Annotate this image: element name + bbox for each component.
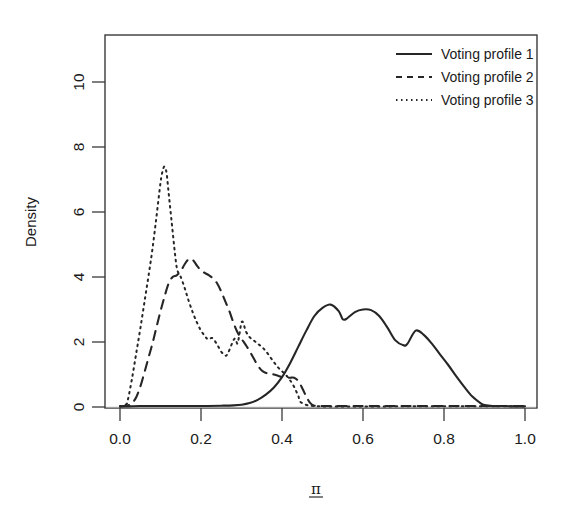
y-tick-label: 0 — [70, 402, 87, 411]
x-tick-label: 0.6 — [352, 430, 374, 447]
x-tick-label: 1.0 — [514, 430, 536, 447]
y-axis-ticks: 0246810 — [70, 73, 106, 411]
density-curve-1 — [120, 305, 525, 407]
plot-canvas: 0.00.20.40.60.81.0 0246810 Voting profil… — [0, 0, 567, 523]
x-tick-label: 0.0 — [109, 430, 131, 447]
x-tick-label: 0.8 — [433, 430, 455, 447]
density-curves — [120, 166, 525, 406]
y-tick-label: 8 — [70, 143, 87, 152]
legend-label-2: Voting profile 2 — [441, 69, 534, 85]
x-tick-label: 0.4 — [271, 430, 293, 447]
y-tick-label: 4 — [70, 272, 87, 281]
y-tick-label: 2 — [70, 338, 87, 347]
y-tick-label: 6 — [70, 208, 87, 217]
density-plot-figure: 0.00.20.40.60.81.0 0246810 Voting profil… — [0, 0, 567, 523]
legend-label-1: Voting profile 1 — [441, 46, 534, 62]
density-curve-3 — [120, 166, 525, 406]
legend-label-3: Voting profile 3 — [441, 92, 534, 108]
x-axis-ticks: 0.00.20.40.60.81.0 — [109, 408, 536, 447]
y-axis-title: Density — [22, 196, 39, 247]
x-axis-title: π — [311, 480, 321, 498]
legend: Voting profile 1Voting profile 2Voting p… — [388, 38, 536, 110]
y-tick-label: 10 — [70, 73, 87, 91]
density-curve-2 — [120, 259, 525, 407]
x-tick-label: 0.2 — [190, 430, 212, 447]
